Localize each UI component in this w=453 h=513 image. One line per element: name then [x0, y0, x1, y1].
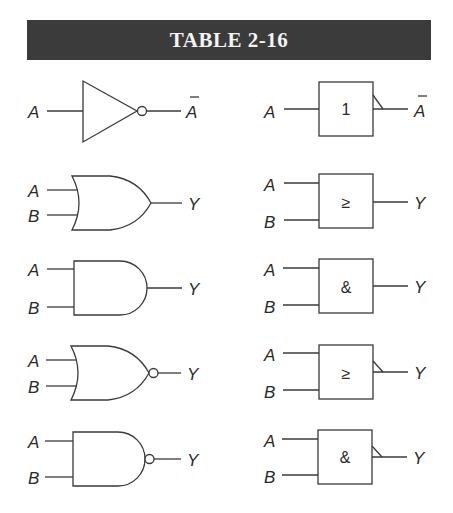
gate-symbol: ≥ — [342, 365, 351, 382]
output-label-y: Y — [187, 365, 200, 384]
nor-gate-distinctive: A B Y — [27, 346, 200, 400]
input-label-b: B — [264, 213, 275, 232]
output-label-a-bar: A — [413, 102, 425, 121]
input-label-b: B — [28, 378, 39, 397]
input-label-a: A — [27, 433, 39, 452]
input-label-b: B — [264, 298, 275, 317]
logic-gate-table: A A A 1 A A B Y A B ≥ Y A — [0, 0, 453, 513]
or-gate-shape-icon — [72, 176, 151, 230]
negation-flag-icon — [373, 95, 383, 109]
output-label-y: Y — [187, 451, 200, 470]
input-label-b: B — [264, 383, 275, 402]
output-label-y: Y — [414, 364, 427, 383]
gate-symbol: & — [341, 279, 352, 296]
output-label-y: Y — [413, 449, 426, 468]
and-gate-distinctive: A B Y — [27, 261, 201, 318]
gate-symbol: ≥ — [342, 194, 351, 211]
input-label-a: A — [263, 176, 275, 195]
inversion-bubble-icon — [138, 107, 147, 116]
buffer-triangle-icon — [83, 81, 137, 142]
output-label-a-bar: A — [185, 103, 197, 122]
not-gate-rectangular: A 1 A — [263, 82, 427, 136]
output-label-y: Y — [414, 278, 427, 297]
output-label-y: Y — [188, 280, 201, 299]
input-label-a: A — [27, 103, 39, 122]
nand-gate-distinctive: A B Y — [27, 432, 200, 488]
input-label-a: A — [263, 432, 275, 451]
negation-flag-icon — [373, 361, 383, 372]
nand-gate-shape-icon — [73, 432, 145, 486]
output-label-y: Y — [414, 194, 427, 213]
output-label-y: Y — [188, 195, 201, 214]
input-label-a: A — [27, 261, 39, 280]
inversion-bubble-icon — [149, 369, 158, 378]
input-label-a: A — [27, 352, 39, 371]
input-label-a: A — [263, 346, 275, 365]
input-label-a: A — [263, 103, 275, 122]
input-label-a: A — [263, 261, 275, 280]
input-label-b: B — [28, 299, 39, 318]
nand-gate-rectangular: A B & Y — [263, 430, 426, 487]
and-gate-rectangular: A B & Y — [263, 259, 427, 317]
inversion-bubble-icon — [145, 455, 154, 464]
input-label-b: B — [28, 469, 39, 488]
gate-symbol: & — [340, 449, 351, 466]
input-label-b: B — [264, 468, 275, 487]
and-gate-shape-icon — [74, 261, 147, 315]
not-gate-distinctive: A A — [27, 81, 199, 142]
input-label-a: A — [27, 182, 39, 201]
nor-gate-rectangular: A B ≥ Y — [263, 345, 427, 402]
negation-flag-icon — [372, 446, 382, 457]
nor-gate-shape-icon — [71, 346, 149, 400]
or-gate-distinctive: A B Y — [27, 176, 201, 230]
input-label-b: B — [28, 207, 39, 226]
gate-symbol: 1 — [342, 101, 351, 118]
or-gate-rectangular: A B ≥ Y — [263, 174, 427, 232]
